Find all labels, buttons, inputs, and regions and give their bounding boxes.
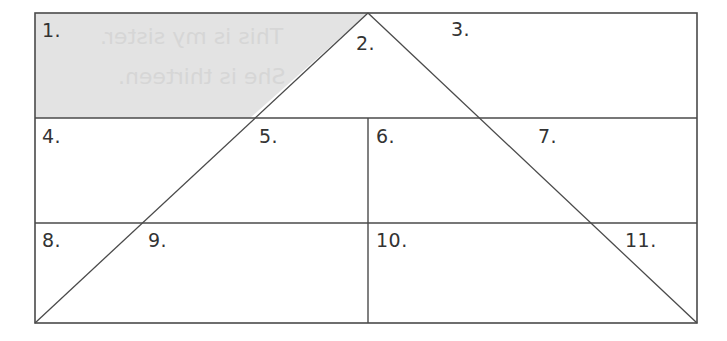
cell-label-8: 8. — [42, 231, 61, 250]
cell-label-2: 2. — [356, 34, 375, 53]
cell-label-1: 1. — [42, 21, 61, 40]
cell-label-5: 5. — [259, 127, 278, 146]
cell-label-6: 6. — [376, 127, 395, 146]
cell-label-3: 3. — [451, 20, 470, 39]
bleed-through-text-line-2: She is thirteen. — [118, 66, 285, 88]
triangle-right-leg — [368, 13, 697, 323]
bleed-through-text-line-1: This is my sister. — [100, 26, 283, 48]
cell-label-10: 10. — [376, 231, 408, 250]
cell-label-4: 4. — [42, 127, 61, 146]
cell-label-7: 7. — [538, 127, 557, 146]
cell-label-11: 11. — [625, 231, 657, 250]
cell-label-9: 9. — [148, 231, 167, 250]
